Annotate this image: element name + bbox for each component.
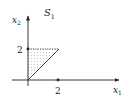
y-tick-label: 2 xyxy=(17,45,23,55)
x-axis-label: x1 xyxy=(113,85,122,96)
y-axis-label: x2 xyxy=(12,15,21,26)
set-title: S1 xyxy=(44,7,55,21)
y-tick-point xyxy=(27,48,30,51)
x-tick-point xyxy=(57,79,60,82)
x-tick-label: 2 xyxy=(55,86,61,96)
set-diagram: S1 x2 x1 2 2 xyxy=(0,0,130,102)
triangle-region xyxy=(28,49,59,80)
